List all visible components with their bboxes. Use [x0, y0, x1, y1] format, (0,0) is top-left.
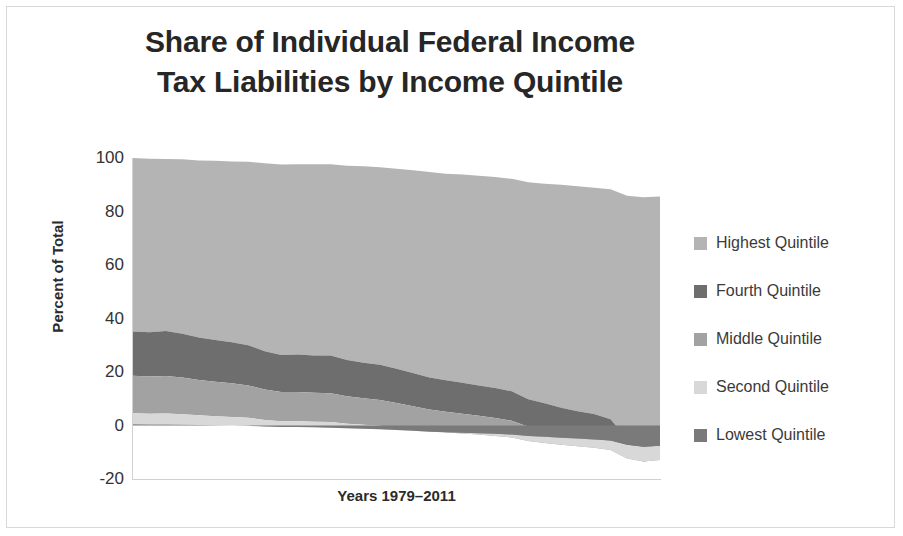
- legend-swatch-icon: [694, 285, 707, 298]
- legend-item-second-quintile[interactable]: Second Quintile: [694, 363, 894, 411]
- y-axis-tick-20: 20: [78, 362, 124, 382]
- y-axis-tick-neg20: -20: [78, 469, 124, 489]
- y-axis-tick-labels: 100806040200-20: [78, 0, 124, 536]
- legend-label: Highest Quintile: [716, 234, 829, 252]
- chart-title-line-2: Tax Liabilities by Income Quintile: [60, 62, 720, 102]
- legend-swatch-icon: [694, 381, 707, 394]
- legend-swatch-icon: [694, 429, 707, 442]
- chart-title-line-1: Share of Individual Federal Income: [60, 22, 720, 62]
- legend-item-middle-quintile[interactable]: Middle Quintile: [694, 315, 894, 363]
- y-axis-tick-0: 0: [78, 416, 124, 436]
- legend-item-fourth-quintile[interactable]: Fourth Quintile: [694, 267, 894, 315]
- stacked-area-svg: [133, 158, 660, 479]
- legend-label: Second Quintile: [716, 378, 829, 396]
- y-axis-tick-100: 100: [78, 148, 124, 168]
- y-axis-tick-40: 40: [78, 309, 124, 329]
- y-axis-title: Percent of Total: [49, 197, 66, 357]
- legend-label: Fourth Quintile: [716, 282, 821, 300]
- legend-label: Lowest Quintile: [716, 426, 825, 444]
- legend-item-lowest-quintile[interactable]: Lowest Quintile: [694, 411, 894, 459]
- chart-legend: Highest QuintileFourth QuintileMiddle Qu…: [694, 219, 894, 459]
- legend-swatch-icon: [694, 237, 707, 250]
- legend-item-highest-quintile[interactable]: Highest Quintile: [694, 219, 894, 267]
- legend-swatch-icon: [694, 333, 707, 346]
- x-axis-line: [132, 479, 661, 480]
- y-axis-tick-60: 60: [78, 255, 124, 275]
- y-axis-tick-80: 80: [78, 202, 124, 222]
- x-axis-title: Years 1979–2011: [133, 487, 660, 504]
- chart-figure: Share of Individual Federal Income Tax L…: [0, 0, 903, 536]
- legend-label: Middle Quintile: [716, 330, 822, 348]
- chart-title: Share of Individual Federal Income Tax L…: [60, 22, 720, 101]
- plot-area: [133, 158, 660, 479]
